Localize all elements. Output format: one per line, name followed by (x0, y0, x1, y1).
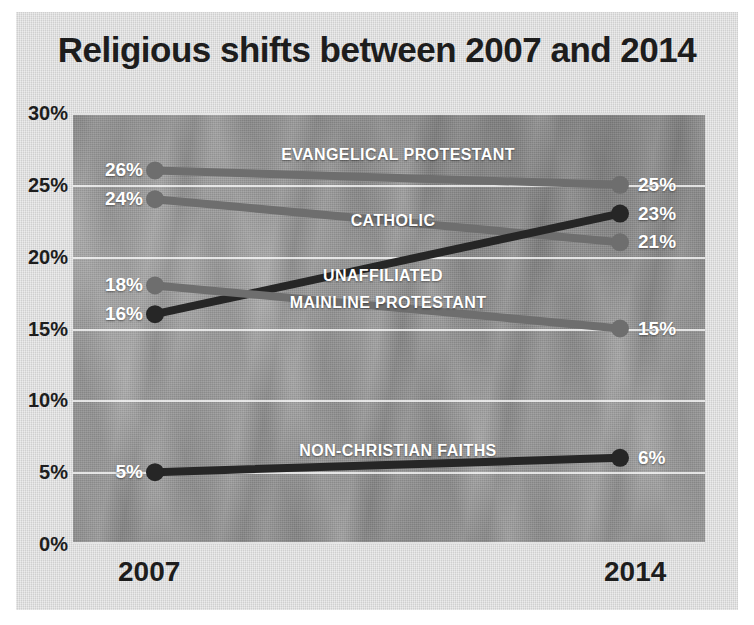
data-point-3-1 (611, 320, 629, 338)
y-axis-tick-10: 10% (4, 389, 68, 412)
data-point-2-1 (611, 205, 629, 223)
value-label-start-2: 16% (93, 303, 143, 325)
value-label-end-2: 23% (638, 203, 676, 225)
data-point-0-1 (611, 176, 629, 194)
data-point-2-0 (146, 305, 164, 323)
y-axis-tick-30: 30% (4, 102, 68, 125)
data-point-0-0 (146, 161, 164, 179)
series-lines (73, 113, 705, 544)
value-label-end-0: 25% (638, 174, 676, 196)
series-name-1: CATHOLIC (351, 212, 436, 230)
value-label-end-1: 21% (638, 231, 676, 253)
x-axis-label-2014: 2014 (604, 556, 666, 588)
value-label-start-0: 26% (93, 159, 143, 181)
value-label-end-4: 6% (638, 447, 665, 469)
y-axis: 30%25%20%15%10%5%0% (0, 0, 68, 625)
value-label-start-1: 24% (93, 188, 143, 210)
data-point-1-1 (611, 233, 629, 251)
page-title: Religious shifts between 2007 and 2014 (0, 30, 754, 70)
chart-page: Religious shifts between 2007 and 2014 3… (0, 0, 754, 625)
series-name-4: NON-CHRISTIAN FAITHS (299, 442, 496, 460)
data-point-1-0 (146, 190, 164, 208)
value-label-start-4: 5% (93, 461, 143, 483)
y-axis-tick-5: 5% (4, 461, 68, 484)
value-label-start-3: 18% (93, 274, 143, 296)
series-name-0: EVANGELICAL PROTESTANT (281, 146, 515, 164)
series-name-2: UNAFFILIATED (323, 267, 443, 285)
data-point-4-0 (146, 463, 164, 481)
y-axis-tick-20: 20% (4, 245, 68, 268)
series-name-3: MAINLINE PROTESTANT (290, 294, 487, 312)
data-point-4-1 (611, 449, 629, 467)
y-axis-tick-25: 25% (4, 173, 68, 196)
y-axis-tick-0: 0% (4, 533, 68, 556)
data-point-3-0 (146, 276, 164, 294)
y-axis-tick-15: 15% (4, 317, 68, 340)
x-axis-label-2007: 2007 (118, 556, 180, 588)
series-line-0 (155, 170, 620, 184)
plot-area: 26%25%EVANGELICAL PROTESTANT24%21%CATHOL… (73, 113, 705, 544)
value-label-end-3: 15% (638, 318, 676, 340)
